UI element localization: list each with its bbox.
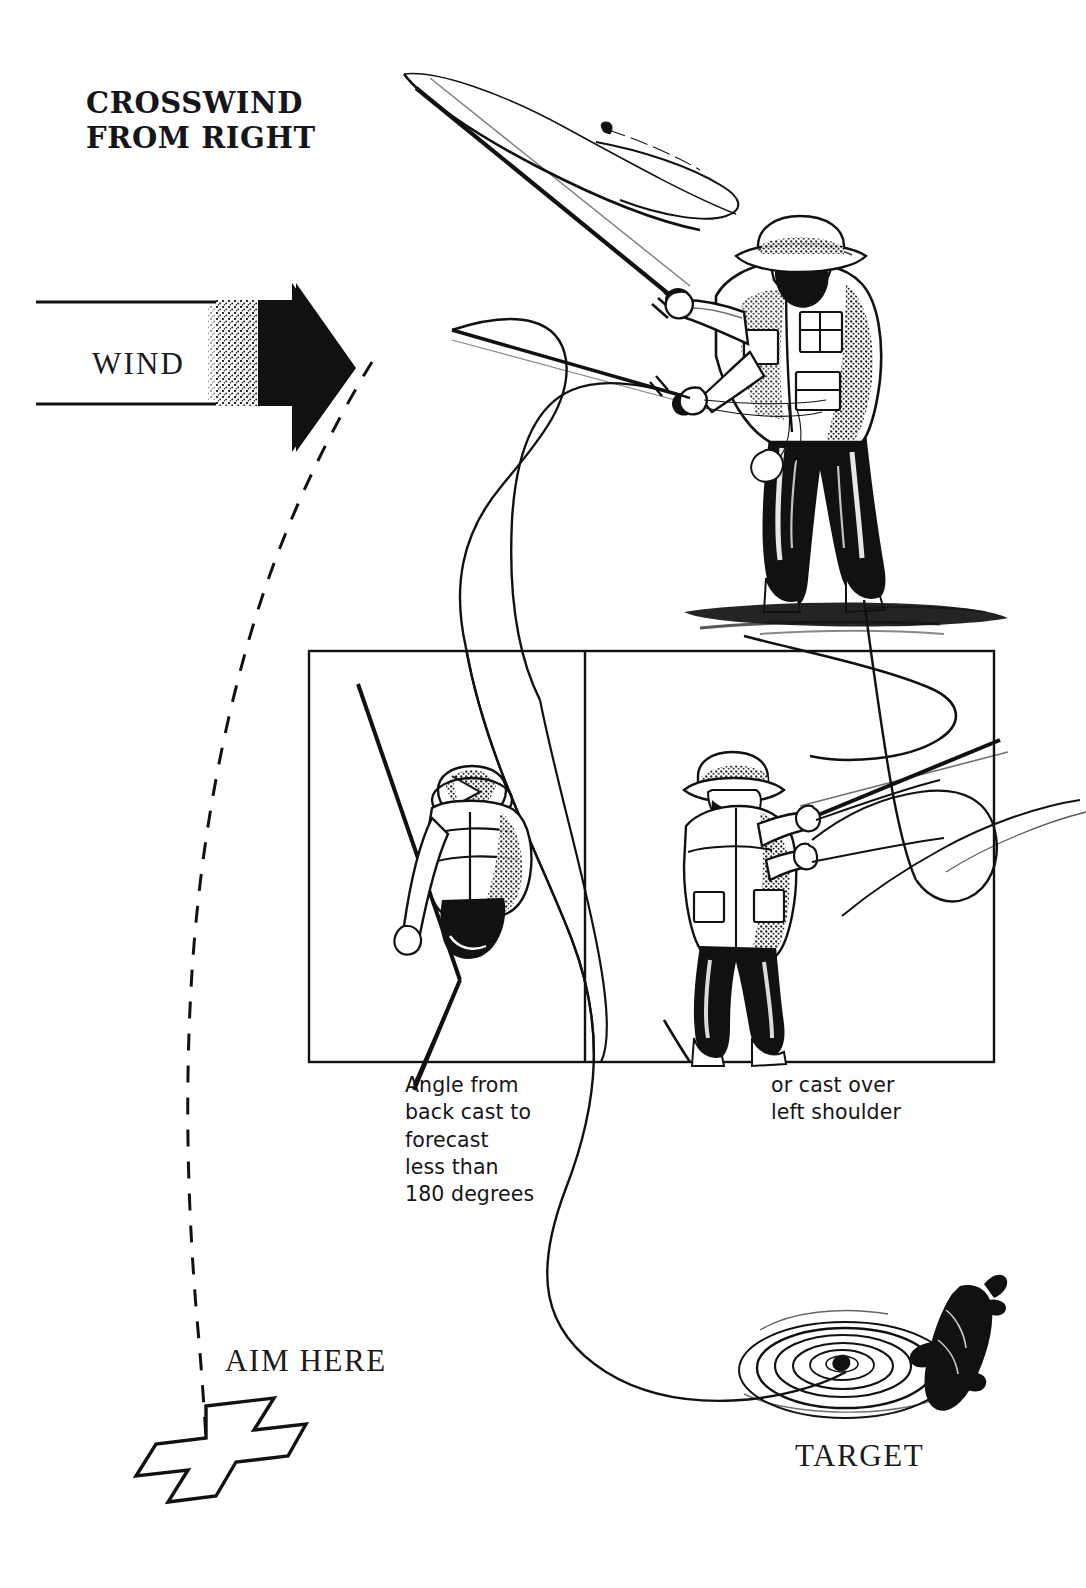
page-title-line1: CROSSWIND [86, 86, 303, 120]
inset-box [309, 651, 994, 1062]
caption-back-cast-angle: Angle from back cast to forecast less th… [405, 1072, 534, 1208]
fly-casting-illustration [0, 0, 1086, 1588]
wind-label: WIND [92, 346, 185, 382]
angler-main-figure [416, 78, 1008, 634]
page-title: CROSSWIND FROM RIGHT [86, 86, 316, 157]
inset-figure-back-cast-angle [358, 684, 531, 1090]
ground-shading [684, 602, 1008, 634]
target-label: TARGET [795, 1438, 924, 1474]
target-fish [910, 1275, 1008, 1411]
inset-figure-left-shoulder-cast [684, 740, 1008, 1066]
wind-arrow [36, 283, 356, 452]
aim-here-cross-marker [136, 1398, 306, 1502]
caption-left-shoulder: or cast over left shoulder [771, 1072, 901, 1127]
aim-trajectory-dashed [188, 362, 372, 1438]
aim-here-label: AIM HERE [225, 1343, 387, 1379]
illustration-page: CROSSWIND FROM RIGHT WIND AIM HERE TARGE… [0, 0, 1086, 1588]
page-title-line2: FROM RIGHT [86, 121, 316, 156]
